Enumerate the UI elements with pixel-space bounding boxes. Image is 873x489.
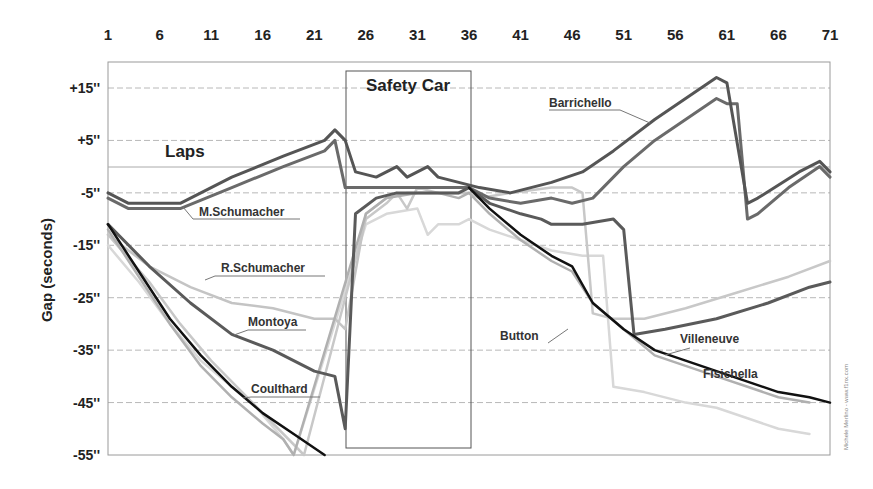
x-tick-label: 1 — [104, 26, 112, 43]
x-tick-label: 11 — [203, 26, 219, 43]
x-tick-label: 16 — [254, 26, 271, 43]
y-tick-label: +5'' — [77, 132, 100, 148]
series-layer — [108, 78, 830, 456]
plot-frame — [108, 62, 830, 455]
label-r-schumacher: R.Schumacher — [221, 261, 305, 275]
x-tick-label: 66 — [770, 26, 787, 43]
leader-barrichello — [620, 110, 650, 123]
leader-r-schumacher — [205, 276, 325, 280]
label-coulthard: Coulthard — [251, 382, 308, 396]
x-tick-label: 61 — [719, 26, 736, 43]
y-tick-label: -5'' — [81, 185, 100, 201]
x-tick-label: 31 — [409, 26, 426, 43]
label-montoya: Montoya — [248, 315, 298, 329]
label-villeneuve: Villeneuve — [680, 332, 739, 346]
y-tick-label: -25'' — [73, 290, 100, 306]
gap-chart: 1611162126313641465156616671 +15''+5''-5… — [0, 0, 873, 489]
y-tick-label: -55'' — [73, 447, 100, 463]
gridlines — [108, 88, 830, 403]
series-line-button — [108, 193, 809, 455]
label-fisichella: Fisichella — [703, 367, 758, 381]
x-tick-label: 56 — [667, 26, 684, 43]
x-tick-label: 6 — [155, 26, 163, 43]
series-line-m-schumacher — [108, 99, 830, 220]
leader-montoya — [234, 330, 306, 335]
leader-villeneuve — [665, 348, 690, 355]
y-axis-ticks: +15''+5''-5''-15''-25''-35''-45''-55'' — [70, 80, 100, 463]
x-tick-label: 51 — [615, 26, 632, 43]
y-tick-label: +15'' — [70, 80, 100, 96]
x-tick-label: 21 — [306, 26, 323, 43]
y-tick-label: -15'' — [73, 237, 100, 253]
y-tick-label: -45'' — [73, 395, 100, 411]
y-axis-title: Gap (seconds) — [38, 218, 55, 322]
credit-text: Michele Merlino - www.f1nx.com — [843, 364, 849, 450]
x-tick-label: 26 — [358, 26, 375, 43]
x-tick-label: 36 — [461, 26, 478, 43]
label-m-schumacher: M.Schumacher — [199, 205, 285, 219]
laps-label: Laps — [165, 142, 205, 161]
safety-car-box — [346, 71, 471, 448]
x-tick-label: 71 — [822, 26, 839, 43]
label-barrichello: Barrichello — [549, 96, 612, 110]
label-button: Button — [500, 329, 539, 343]
x-tick-label: 41 — [512, 26, 529, 43]
series-line-coulthard-2nd-half — [469, 188, 830, 403]
series-line-montoya — [108, 188, 830, 429]
leader-button — [548, 329, 568, 343]
safety-car-label: Safety Car — [366, 76, 450, 95]
leader-coulthard — [243, 397, 320, 398]
y-tick-label: -35'' — [73, 342, 100, 358]
x-axis-ticks: 1611162126313641465156616671 — [104, 26, 839, 43]
x-tick-label: 46 — [564, 26, 581, 43]
